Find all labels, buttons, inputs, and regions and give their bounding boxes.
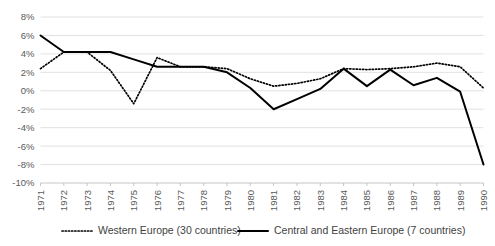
gridlines xyxy=(41,17,484,183)
chart-legend: Western Europe (30 countries)Central and… xyxy=(62,224,465,236)
legend-label-western-europe: Western Europe (30 countries) xyxy=(98,224,241,236)
x-axis-tick-label: 1972 xyxy=(58,190,69,211)
x-axis-tick-label: 1986 xyxy=(385,190,396,211)
x-axis-tick-label: 1982 xyxy=(291,190,302,211)
chart-canvas: 8%6%4%2%0%-2%-4%-6%-8%-10% 1971197219731… xyxy=(0,0,495,246)
x-axis-tick-label: 1974 xyxy=(105,190,116,211)
y-axis-tick-label: -4% xyxy=(18,122,35,133)
x-axis-tick-label: 1978 xyxy=(198,190,209,211)
y-axis-tick-label: -10% xyxy=(12,177,35,188)
x-axis-tick-label: 1988 xyxy=(431,190,442,211)
x-axis-tick-label: 1977 xyxy=(175,190,186,211)
y-axis-tick-label: 8% xyxy=(21,11,35,22)
y-axis-tick-label: -8% xyxy=(18,159,35,170)
y-axis-tick-label: 4% xyxy=(21,48,35,59)
x-axis-tick-label: 1975 xyxy=(128,190,139,211)
x-axis-tick-label: 1979 xyxy=(222,190,233,211)
x-axis-tick-label: 1984 xyxy=(338,190,349,211)
y-axis-tick-label: 0% xyxy=(21,85,35,96)
x-axis-tick-label: 1980 xyxy=(245,190,256,211)
x-axis-tick-labels: 1971197219731974197519761977197819791980… xyxy=(35,190,489,211)
line-chart: 8%6%4%2%0%-2%-4%-6%-8%-10% 1971197219731… xyxy=(0,0,495,246)
data-series-layer xyxy=(41,35,484,164)
series-line-central-and-eastern-europe xyxy=(41,35,484,164)
x-axis-tick-label: 1973 xyxy=(82,190,93,211)
x-axis-tick-label: 1971 xyxy=(35,190,46,211)
x-axis-tick-label: 1981 xyxy=(268,190,279,211)
y-axis-tick-label: -6% xyxy=(18,141,35,152)
x-axis-tick-label: 1985 xyxy=(361,190,372,211)
y-axis-tick-label: 6% xyxy=(21,30,35,41)
x-axis-tick-label: 1976 xyxy=(152,190,163,211)
y-axis-tick-label: 2% xyxy=(21,67,35,78)
x-axis-tick-label: 1989 xyxy=(455,190,466,211)
x-axis-tick-label: 1983 xyxy=(315,190,326,211)
y-axis-tick-label: -2% xyxy=(18,104,35,115)
series-line-western-europe xyxy=(41,52,484,104)
y-axis-tick-labels: 8%6%4%2%0%-2%-4%-6%-8%-10% xyxy=(12,11,35,188)
x-axis-tick-label: 1987 xyxy=(408,190,419,211)
legend-label-central-and-eastern-europe: Central and Eastern Europe (7 countries) xyxy=(274,224,465,236)
x-axis-tick-label: 1990 xyxy=(478,190,489,211)
